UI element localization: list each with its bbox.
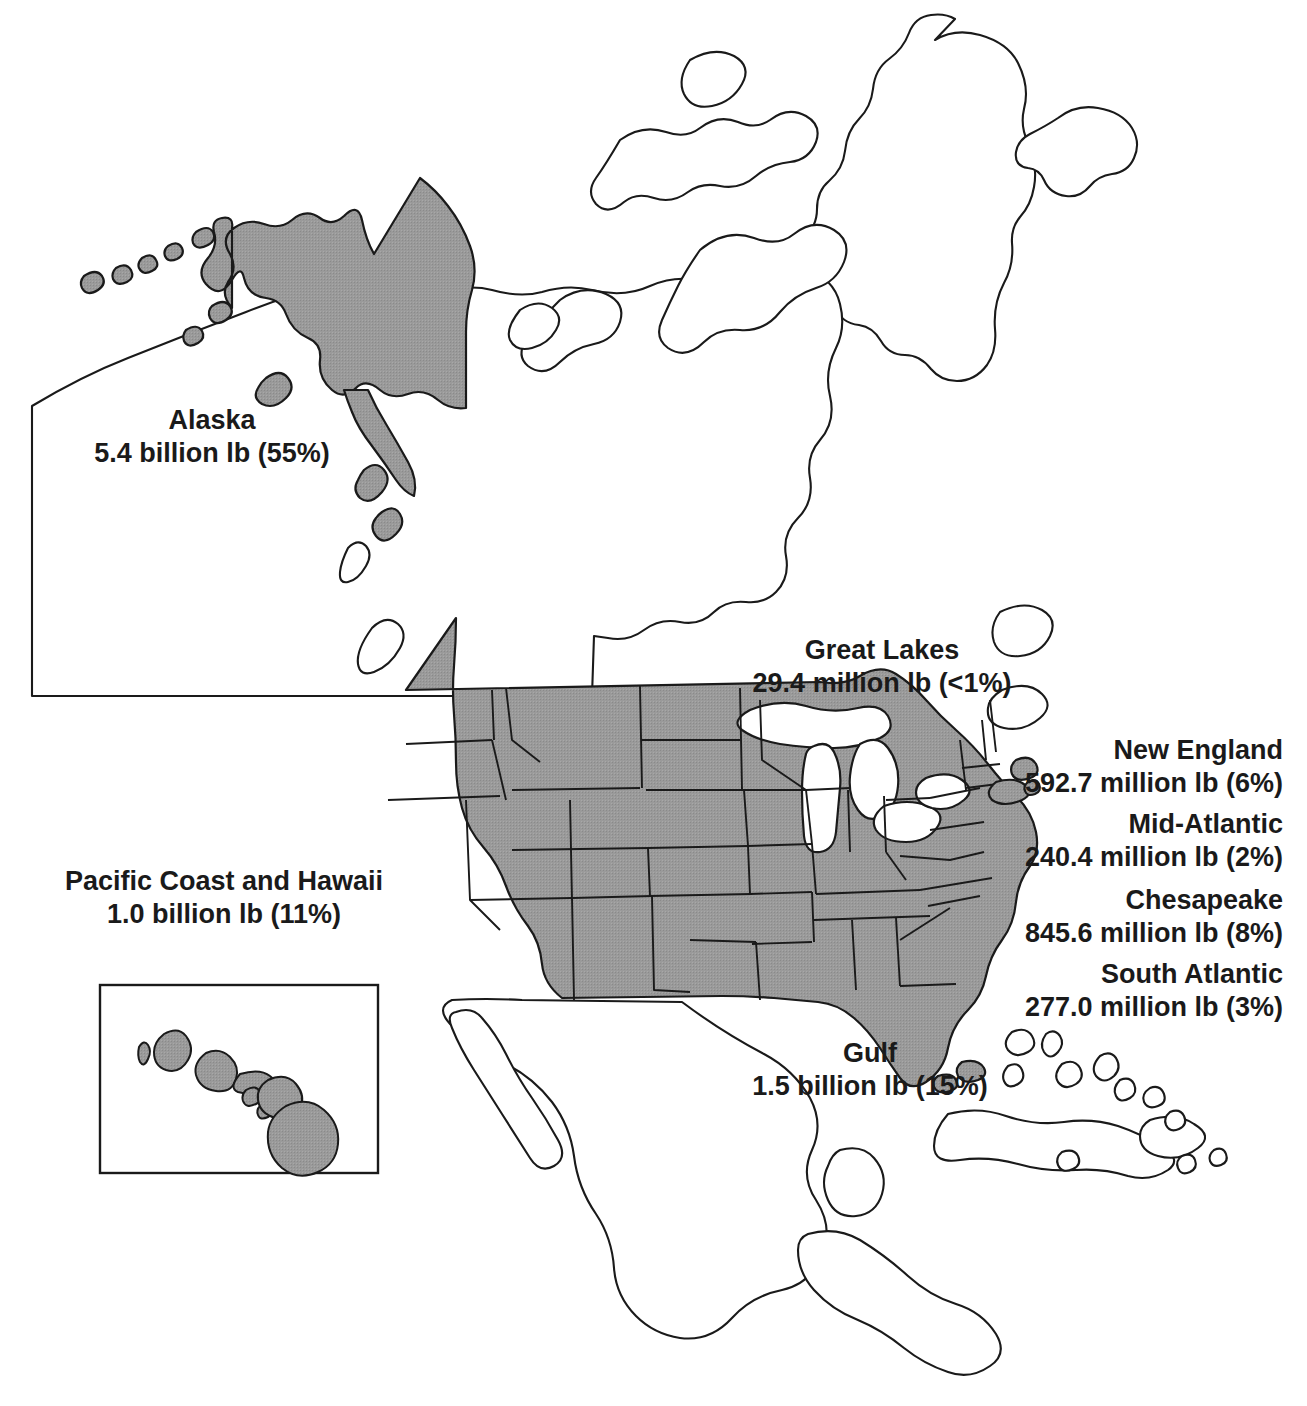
label-gulf-name: Gulf — [752, 1037, 988, 1070]
aleutian-isle-3 — [138, 255, 157, 272]
label-great-lakes: Great Lakes 29.4 million lb (<1%) — [753, 634, 1012, 700]
label-new-england: New England 592.7 million lb (6%) — [1025, 734, 1283, 800]
yucatan-peninsula — [824, 1148, 884, 1216]
label-mid-atlantic: Mid-Atlantic 240.4 million lb (2%) — [1025, 808, 1283, 874]
label-new-england-value: 592.7 million lb (6%) — [1025, 767, 1283, 800]
label-south-atlantic-name: South Atlantic — [1025, 958, 1283, 991]
bahamas-8 — [1165, 1111, 1185, 1131]
label-chesapeake-value: 845.6 million lb (8%) — [1025, 917, 1283, 950]
aleutian-isle-4 — [164, 243, 182, 260]
label-alaska-name: Alaska — [94, 404, 330, 437]
label-chesapeake-name: Chesapeake — [1025, 884, 1283, 917]
bahamas-3 — [1056, 1062, 1082, 1087]
aleutian-isle-5 — [192, 228, 214, 248]
central-america-outline — [798, 1231, 1001, 1375]
bahamas-1 — [1006, 1030, 1035, 1055]
label-great-lakes-value: 29.4 million lb (<1%) — [753, 667, 1012, 700]
label-pacific-coast-and-hawaii-name: Pacific Coast and Hawaii — [65, 865, 383, 898]
canada-arctic-islands — [591, 112, 818, 210]
label-gulf-value: 1.5 billion lb (15%) — [752, 1070, 988, 1103]
aleutian-isle-1 — [81, 272, 104, 293]
long-island — [989, 780, 1029, 804]
label-gulf: Gulf 1.5 billion lb (15%) — [752, 1037, 988, 1103]
label-chesapeake: Chesapeake 845.6 million lb (8%) — [1025, 884, 1283, 950]
map-figure: Alaska 5.4 billion lb (55%) Pacific Coas… — [0, 0, 1307, 1406]
north-america-map — [0, 0, 1307, 1406]
hawaii-big-island — [268, 1102, 338, 1176]
aleutian-isle-2 — [112, 265, 132, 283]
ellesmere-island — [682, 52, 746, 107]
label-pacific-coast-and-hawaii-value: 1.0 billion lb (11%) — [65, 898, 383, 931]
label-mid-atlantic-name: Mid-Atlantic — [1025, 808, 1283, 841]
bahamas-2 — [1042, 1031, 1062, 1056]
small-isle-1 — [1177, 1155, 1196, 1174]
jamaica-outline — [1057, 1151, 1079, 1171]
label-new-england-name: New England — [1025, 734, 1283, 767]
label-south-atlantic: South Atlantic 277.0 million lb (3%) — [1025, 958, 1283, 1024]
small-isle-2 — [1210, 1149, 1227, 1166]
bahamas-7 — [1003, 1064, 1023, 1086]
label-mid-atlantic-value: 240.4 million lb (2%) — [1025, 841, 1283, 874]
label-south-atlantic-value: 277.0 million lb (3%) — [1025, 991, 1283, 1024]
bahamas-4 — [1094, 1053, 1119, 1080]
cuba-outline — [934, 1110, 1174, 1178]
oahu-island — [195, 1051, 237, 1092]
bahamas-6 — [1143, 1087, 1165, 1107]
label-alaska-value: 5.4 billion lb (55%) — [94, 437, 330, 470]
bahamas-5 — [1115, 1079, 1136, 1101]
label-pacific-coast-and-hawaii: Pacific Coast and Hawaii 1.0 billion lb … — [65, 865, 383, 931]
hawaii-inset-group — [100, 985, 378, 1176]
label-great-lakes-name: Great Lakes — [753, 634, 1012, 667]
label-alaska: Alaska 5.4 billion lb (55%) — [94, 404, 330, 470]
